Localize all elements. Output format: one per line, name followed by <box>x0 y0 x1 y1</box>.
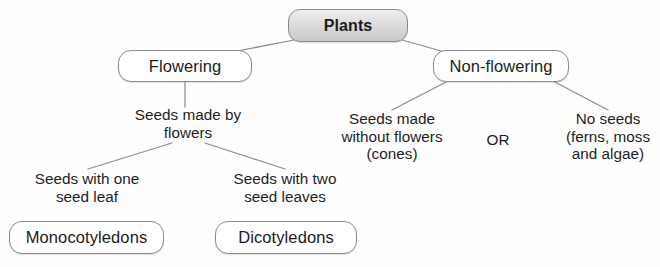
node-plants-label: Plants <box>324 17 373 35</box>
node-flowering[interactable]: Flowering <box>118 50 252 82</box>
connector-nonflowering-to-cones <box>392 81 448 110</box>
node-monocotyledons-label: Monocotyledons <box>26 228 148 247</box>
text-line: seed leaves <box>244 188 326 206</box>
text-line: No seeds <box>576 110 641 128</box>
node-seeds-made-by-flowers: Seeds made byflowers <box>118 106 258 146</box>
connector-flowers-to-one-leaf <box>88 143 172 169</box>
node-monocotyledons[interactable]: Monocotyledons <box>9 221 164 254</box>
text-line: (ferns, moss <box>566 128 650 146</box>
node-seeds-with-two-seed-leaves: Seeds with twoseed leaves <box>214 170 356 210</box>
node-non-flowering-label: Non-flowering <box>449 57 552 76</box>
node-or-separator: OR <box>478 131 518 151</box>
text-line: seed leaf <box>56 188 118 206</box>
node-dicotyledons-label: Dicotyledons <box>238 228 334 247</box>
text-line: flowers <box>164 124 212 142</box>
node-dicotyledons[interactable]: Dicotyledons <box>215 221 357 254</box>
text-line: Seeds made by <box>135 106 241 124</box>
or-separator-label: OR <box>487 131 510 149</box>
node-seeds-with-one-seed-leaf: Seeds with oneseed leaf <box>16 170 158 210</box>
node-flowering-label: Flowering <box>149 57 221 76</box>
text-line: and algae) <box>572 145 644 163</box>
connector-flowers-to-two-leaves <box>205 143 285 169</box>
node-seeds-made-without-flowers: Seeds madewithout flowers(cones) <box>330 110 454 168</box>
connector-nonflowering-to-noseeds <box>553 81 608 110</box>
text-line: Seeds with one <box>35 170 140 188</box>
node-no-seeds: No seeds(ferns, mossand algae) <box>556 110 660 168</box>
text-line: without flowers <box>341 128 442 146</box>
plants-classification-diagram: Plants Flowering Non-flowering Seeds mad… <box>0 0 660 267</box>
text-line: Seeds made <box>349 110 435 128</box>
node-plants[interactable]: Plants <box>288 9 408 42</box>
node-non-flowering[interactable]: Non-flowering <box>433 50 569 82</box>
text-line: Seeds with two <box>234 170 337 188</box>
text-line: (cones) <box>366 145 417 163</box>
